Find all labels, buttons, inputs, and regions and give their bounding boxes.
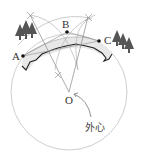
- point-b: [65, 30, 69, 34]
- label-b: B: [62, 18, 69, 30]
- label-o: O: [65, 94, 73, 106]
- trees-right-icon: [112, 30, 134, 53]
- annotation-label: 外心: [85, 122, 105, 133]
- label-a: A: [12, 50, 20, 62]
- circumcenter-diagram: A B C O 外心: [0, 0, 146, 159]
- bisector-bc: [69, 17, 88, 92]
- annotation-arrow: [74, 94, 91, 117]
- point-c: [97, 39, 101, 43]
- label-c: C: [104, 34, 111, 46]
- point-a: [21, 54, 25, 58]
